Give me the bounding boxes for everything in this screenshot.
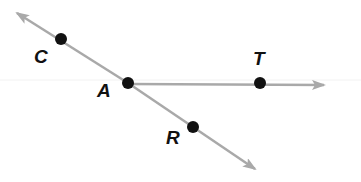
ray-AT <box>128 84 324 85</box>
label-R: R <box>166 128 180 147</box>
label-A: A <box>97 81 111 100</box>
point-R <box>187 121 199 133</box>
point-A <box>122 77 134 89</box>
label-C: C <box>34 47 48 66</box>
label-T: T <box>253 49 265 68</box>
point-T <box>254 77 266 89</box>
point-C <box>55 33 67 45</box>
geometry-diagram <box>0 0 361 182</box>
